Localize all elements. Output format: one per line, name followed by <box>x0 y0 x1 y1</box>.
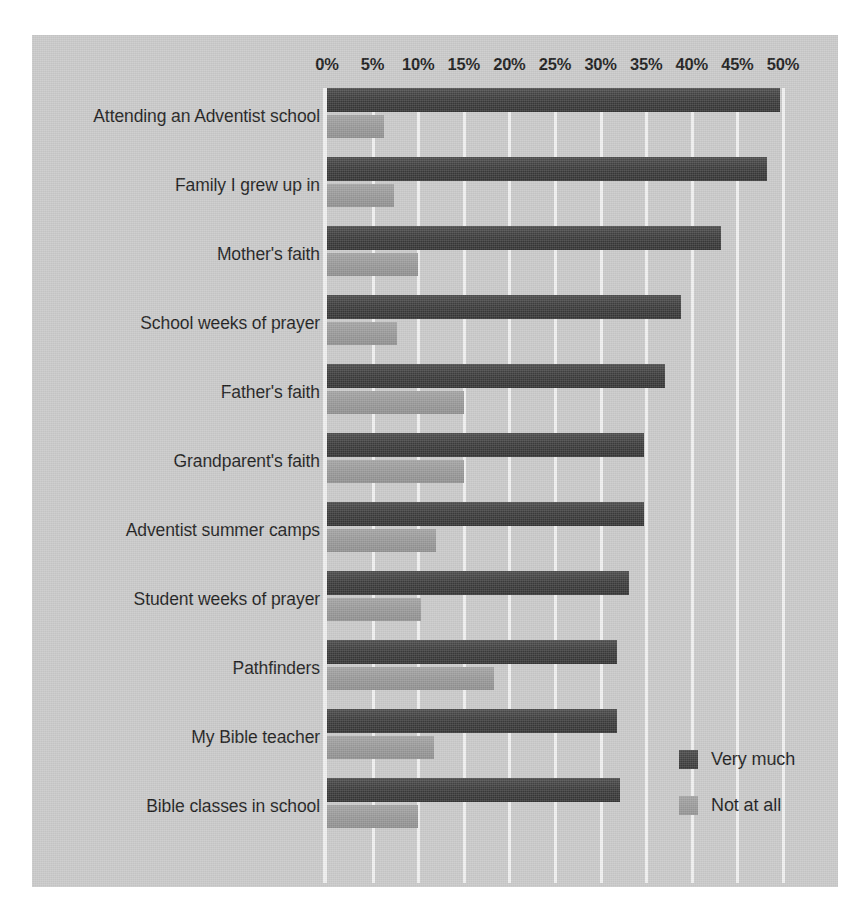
x-axis-tick-labels: 0%5%10%15%20%25%30%35%40%45%50% <box>327 55 783 79</box>
bar-not-at-all <box>327 667 494 690</box>
bar-not-at-all <box>327 184 394 207</box>
bar-not-at-all <box>327 736 434 759</box>
axis-baseline <box>323 88 327 883</box>
bar-not-at-all <box>327 805 418 828</box>
bar-very-much <box>327 502 644 526</box>
legend-label-very-much: Very much <box>711 749 795 770</box>
gridline <box>372 88 375 883</box>
chart-legend: Very much Not at all <box>679 743 795 835</box>
legend-swatch-very-much <box>679 750 698 769</box>
legend-item-very-much: Very much <box>679 743 795 775</box>
category-label: Grandparent's faith <box>32 451 320 472</box>
category-label: Student weeks of prayer <box>32 589 320 610</box>
x-tick-label: 40% <box>676 55 708 74</box>
legend-swatch-not-at-all <box>679 796 698 815</box>
bar-not-at-all <box>327 529 436 552</box>
category-label: School weeks of prayer <box>32 313 320 334</box>
bar-not-at-all <box>327 253 418 276</box>
gridline <box>554 88 557 883</box>
gridline <box>645 88 648 883</box>
bar-very-much <box>327 295 681 319</box>
legend-item-not-at-all: Not at all <box>679 789 795 821</box>
category-label: Bible classes in school <box>32 796 320 817</box>
x-tick-label: 10% <box>402 55 434 74</box>
bar-not-at-all <box>327 460 464 483</box>
bar-very-much <box>327 157 767 181</box>
bar-not-at-all <box>327 115 384 138</box>
bar-very-much <box>327 640 617 664</box>
x-tick-label: 35% <box>630 55 662 74</box>
gridline <box>417 88 420 883</box>
category-label: Adventist summer camps <box>32 520 320 541</box>
x-tick-label: 20% <box>493 55 525 74</box>
x-tick-label: 15% <box>448 55 480 74</box>
bar-very-much <box>327 226 721 250</box>
category-label: Father's faith <box>32 382 320 403</box>
gridline <box>463 88 466 883</box>
category-label: Mother's faith <box>32 244 320 265</box>
category-label: Pathfinders <box>32 658 320 679</box>
bar-very-much <box>327 778 620 802</box>
bar-not-at-all <box>327 391 464 414</box>
y-axis-category-labels: Attending an Adventist schoolFamily I gr… <box>32 88 320 883</box>
bar-not-at-all <box>327 598 421 621</box>
x-tick-label: 45% <box>721 55 753 74</box>
x-tick-label: 30% <box>584 55 616 74</box>
category-label: My Bible teacher <box>32 727 320 748</box>
gridline <box>508 88 511 883</box>
x-tick-label: 5% <box>361 55 384 74</box>
category-label: Family I grew up in <box>32 175 320 196</box>
x-tick-label: 25% <box>539 55 571 74</box>
bar-not-at-all <box>327 322 397 345</box>
bar-very-much <box>327 709 617 733</box>
legend-label-not-at-all: Not at all <box>711 795 781 816</box>
bar-very-much <box>327 571 629 595</box>
bar-very-much <box>327 88 780 112</box>
gridline <box>600 88 603 883</box>
x-tick-label: 0% <box>315 55 338 74</box>
x-tick-label: 50% <box>767 55 799 74</box>
chart-panel: 0%5%10%15%20%25%30%35%40%45%50% Attendin… <box>32 35 838 887</box>
category-label: Attending an Adventist school <box>32 106 320 127</box>
bar-very-much <box>327 433 644 457</box>
bar-very-much <box>327 364 665 388</box>
